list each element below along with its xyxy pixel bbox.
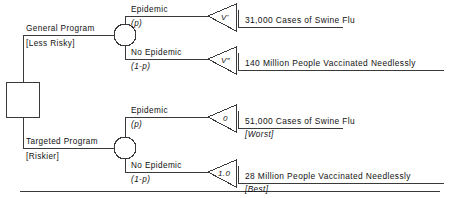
outcome-text-general-noepidemic: 140 Million People Vaccinated Needlessly — [245, 59, 416, 67]
branch-label-targeted-program: Targeted Program — [26, 138, 98, 146]
probability-label-general-epidemic: (p) — [131, 20, 142, 28]
outcome-note-targeted-epidemic: [Worst] — [245, 131, 274, 139]
node-value-general-epidemic: V' — [221, 14, 229, 22]
event-label-targeted-epidemic: Epidemic — [131, 107, 168, 115]
probability-label-targeted-noepidemic: (1-p) — [131, 176, 150, 184]
event-label-general-noepidemic: No Epidemic — [131, 49, 182, 57]
branch-label-general-program: General Program — [26, 25, 95, 33]
chance-circle-targeted — [114, 137, 136, 159]
outcome-text-targeted-epidemic: 51,000 Cases of Swine Flu — [245, 117, 355, 125]
node-value-targeted-noepidemic: 1.0 — [218, 170, 230, 178]
branch-note-general-program: [Less Risky] — [26, 40, 75, 48]
outcome-note-italic-worst: [Worst] — [245, 130, 274, 139]
decision-tree-diagram: General Program [Less Risky] Targeted Pr… — [0, 0, 452, 198]
outcome-text-targeted-noepidemic: 28 Million People Vaccinated Needlessly — [245, 172, 411, 180]
outcome-text-general-epidemic: 31,000 Cases of Swine Flu — [245, 16, 355, 24]
terminal-triangle-targeted-epidemic — [208, 105, 236, 132]
outcome-note-italic-best: [Best] — [245, 185, 268, 194]
branch-note-targeted-program: [Riskier] — [26, 153, 59, 161]
decision-square-node — [7, 83, 40, 118]
node-value-targeted-epidemic: 0 — [223, 115, 228, 123]
probability-label-general-noepidemic: (1-p) — [131, 63, 150, 71]
probability-label-targeted-epidemic: (p) — [131, 121, 142, 129]
node-value-general-noepidemic: V″ — [221, 57, 230, 65]
outcome-note-targeted-noepidemic: [Best] — [245, 186, 268, 194]
event-label-targeted-noepidemic: No Epidemic — [131, 162, 182, 170]
event-label-general-epidemic: Epidemic — [131, 6, 168, 14]
